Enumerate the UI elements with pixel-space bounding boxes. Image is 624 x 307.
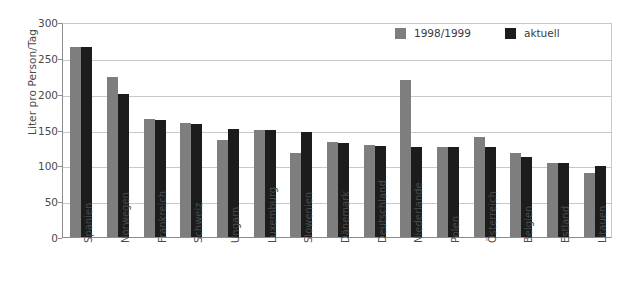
bar [290,153,301,237]
y-axis-tick-label: 50 [18,197,58,208]
bar [107,77,118,237]
legend-swatch [395,28,406,39]
y-axis-tick-label: 100 [18,161,58,172]
bar [327,142,338,237]
bar [70,47,81,237]
bar [510,153,521,237]
x-axis-category-label: Norwegen [121,192,131,243]
bar [144,119,155,237]
legend-swatch [505,28,516,39]
x-axis-category-label: Schweiz [194,202,204,243]
y-axis-tick-label: 250 [18,54,58,65]
x-axis-category-label: Österreich [488,191,498,243]
x-axis-category-label: Niederlande [414,182,424,243]
bar [364,145,375,237]
x-axis-category-label: Deutschland [378,180,388,243]
y-axis-tick-mark [58,238,62,239]
bar [584,173,595,237]
y-axis-tick-label: 200 [18,90,58,101]
chart-legend: 1998/1999aktuell [395,28,560,39]
bar-group [217,24,239,237]
bar [547,163,558,237]
x-axis-category-label: Polen [451,216,461,243]
bar [254,130,265,237]
x-axis-category-label: Luxemburg [268,187,278,243]
x-axis-category-label: Litauen [598,206,608,243]
legend-item: 1998/1999 [395,28,471,39]
bar [400,80,411,237]
bar [217,140,228,237]
x-axis-category-label: Spanien [84,203,94,243]
legend-label: aktuell [524,28,560,39]
bar [474,137,485,237]
x-axis-category-label: Slowenien [304,192,314,243]
legend-label: 1998/1999 [414,28,471,39]
bar [437,147,448,237]
x-axis-category-label: Ungarn [231,207,241,243]
x-axis-category-label: Estland [561,206,571,243]
bar-chart: Liter pro Person/Tag 050100150200250300 … [0,0,624,307]
bar-group [437,24,459,237]
y-axis-tick-label: 0 [18,233,58,244]
y-axis-tick-label: 150 [18,126,58,137]
x-axis-category-label: Belgien [524,206,534,243]
x-axis-category-label: Frankreich [158,191,168,243]
x-axis-category-label: Dänemark [341,191,351,243]
y-axis-tick-label: 300 [18,18,58,29]
bar [180,123,191,237]
legend-item: aktuell [505,28,560,39]
